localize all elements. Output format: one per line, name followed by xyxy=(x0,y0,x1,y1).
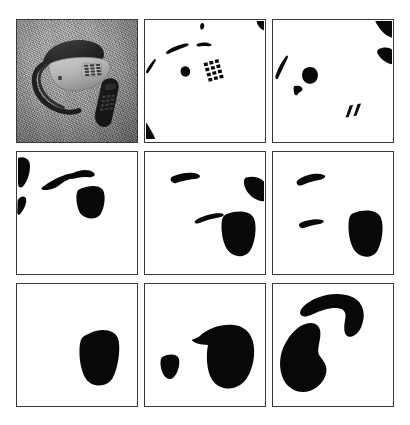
blob-round-center xyxy=(302,67,318,84)
panel-9-segmentation xyxy=(272,283,394,407)
chevron-fragment-right xyxy=(377,47,392,64)
blob-keypad-rect xyxy=(76,186,104,219)
corner-fragment-bottom-left xyxy=(146,122,155,139)
blob-left-edge-top xyxy=(18,157,30,187)
panel-6-segmentation xyxy=(272,151,394,275)
blob-sliver-upper xyxy=(166,44,189,54)
blob-left-edge-lower xyxy=(17,197,26,215)
panel-4-segmentation xyxy=(16,151,138,275)
panel-5-segmentation xyxy=(144,151,266,275)
panel-9-blobs xyxy=(273,284,393,406)
blob-keypad-large xyxy=(348,211,382,257)
blob-hook-center-left xyxy=(294,86,303,96)
figure-root xyxy=(0,0,410,425)
panel-3-segmentation xyxy=(272,19,394,143)
panel-3-blobs xyxy=(273,20,393,142)
blob-sliver-upper-left xyxy=(171,173,200,183)
blob-keypad-large xyxy=(221,212,255,257)
blob-sliver-left xyxy=(275,56,288,80)
blob-keypad-rect xyxy=(79,330,119,385)
blob-phone-body-kidney xyxy=(280,323,326,392)
panel-8-segmentation xyxy=(144,283,266,407)
photo-image xyxy=(17,20,137,142)
blob-sliver-left xyxy=(146,59,156,73)
blob-triangle-right-edge xyxy=(244,177,264,201)
panel-7-blobs xyxy=(17,284,137,406)
panel-2-segmentation xyxy=(144,19,266,143)
panel-7-segmentation xyxy=(16,283,138,407)
panel-5-blobs xyxy=(145,152,265,274)
corner-fragment-top-right xyxy=(375,21,392,38)
keypad-dot-grid xyxy=(203,59,223,82)
photo-vignette xyxy=(17,20,137,142)
blob-sliver-middle xyxy=(195,213,224,223)
blob-sliver-upper-left xyxy=(297,174,325,186)
panel-1-photograph xyxy=(16,19,138,143)
blob-fragment xyxy=(200,23,204,29)
panel-6-blobs xyxy=(273,152,393,274)
dash-pair-lower-right xyxy=(346,103,361,117)
blob-droplet xyxy=(181,66,191,76)
blob-sliver-upper-right xyxy=(197,42,212,46)
blob-small-lower-left xyxy=(161,354,180,379)
panel-grid xyxy=(16,19,394,404)
panel-2-blobs xyxy=(145,20,265,142)
panel-8-blobs xyxy=(145,284,265,406)
blob-handset-tip xyxy=(70,170,95,179)
blob-sliver-lower-left xyxy=(299,219,324,228)
panel-4-blobs xyxy=(17,152,137,274)
corner-fragment-top-right xyxy=(257,21,264,30)
blob-merged-bird-shape xyxy=(192,325,254,389)
